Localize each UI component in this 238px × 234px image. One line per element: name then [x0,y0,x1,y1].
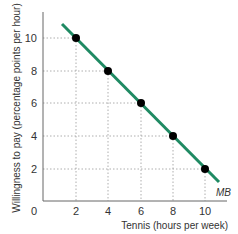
data-point [201,165,209,173]
data-point [104,67,112,75]
data-point [72,34,80,42]
origin-label: 0 [31,205,37,217]
data-point [137,99,145,107]
x-tick-8: 8 [170,205,176,217]
x-tick-6: 6 [138,205,144,217]
data-point [169,132,177,140]
y-tick-4: 4 [31,130,37,142]
mb-label: MB [216,187,231,198]
chart: 10 8 6 4 2 0 2 4 6 8 10 MB Tennis (hours… [0,0,238,234]
y-tick-2: 2 [31,163,37,175]
y-tick-8: 8 [31,65,37,77]
y-tick-10: 10 [25,32,37,44]
guide-lines [43,38,205,201]
y-tick-6: 6 [31,97,37,109]
x-axis-label: Tennis (hours per week) [121,220,228,231]
x-tick-2: 2 [73,205,79,217]
x-tick-10: 10 [199,205,211,217]
x-tick-4: 4 [105,205,111,217]
y-axis-label: Willingness to pay (percentage points pe… [11,3,22,213]
